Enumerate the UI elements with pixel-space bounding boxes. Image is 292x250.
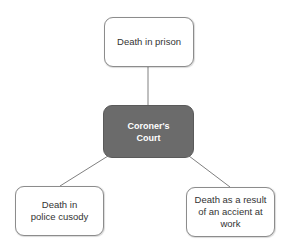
edge-coroner-custody [60, 156, 108, 186]
node-coroners-court: Coroner's Court [103, 105, 194, 158]
node-label: Death in prison [117, 36, 181, 48]
node-death-accident-at-work: Death as a result of an accient at work [186, 187, 275, 237]
node-death-in-prison: Death in prison [104, 17, 194, 67]
edge-coroner-work [189, 156, 230, 187]
node-death-in-police-custody: Death in police cusody [15, 186, 104, 236]
node-label: Coroner's Court [127, 120, 169, 144]
node-label: Death as a result of an accient at work [195, 194, 267, 230]
node-label: Death in police cusody [31, 199, 89, 223]
